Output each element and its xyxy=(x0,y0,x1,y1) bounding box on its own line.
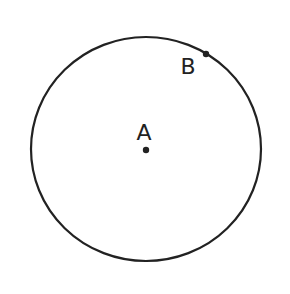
point-b-dot xyxy=(203,51,209,57)
point-a-label: A xyxy=(136,120,151,145)
point-b-label: B xyxy=(180,54,195,79)
point-a-dot xyxy=(143,147,149,153)
circle-diagram: A B xyxy=(0,0,290,294)
diagram-canvas: A B xyxy=(0,0,290,294)
